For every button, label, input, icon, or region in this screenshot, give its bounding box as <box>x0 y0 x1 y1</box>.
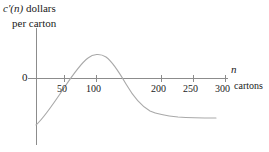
marginal-cost-figure: c′(n) dollars per carton 0 50 100 200 25… <box>0 0 269 152</box>
x-axis-variable-label: n <box>231 64 237 75</box>
x-tick-label-250: 250 <box>183 84 198 94</box>
x-tick-label-300: 300 <box>215 84 230 94</box>
x-tick-label-100: 100 <box>86 84 101 94</box>
y-axis-title-line-2: per carton <box>12 18 56 29</box>
y-axis-title-units-word: dollars <box>23 2 56 14</box>
x-tick-label-200: 200 <box>151 84 166 94</box>
origin-label: 0 <box>22 72 28 83</box>
x-axis-units-label: cartons <box>234 81 263 91</box>
y-axis-title-argument: (n) <box>10 2 23 14</box>
x-tick-label-50: 50 <box>57 84 67 94</box>
y-axis-title-line-1: c′(n) dollars <box>3 3 56 14</box>
